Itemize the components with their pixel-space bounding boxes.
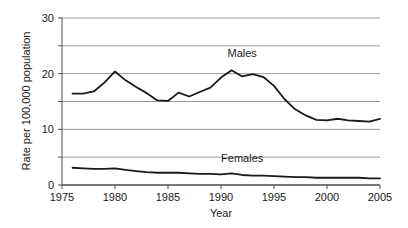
x-tick-label-1980: 1980: [103, 191, 127, 203]
chart-container: 0102030 1975198019851990199520002005 Mal…: [0, 0, 408, 228]
x-axis-title: Year: [210, 207, 233, 219]
y-tick-label-0: 0: [48, 179, 54, 191]
y-axis-title: Rate per 100,000 population: [20, 32, 32, 171]
series-label-females: Females: [221, 152, 264, 164]
y-tick-label-10: 10: [42, 123, 54, 135]
y-tick-label-30: 30: [42, 12, 54, 24]
x-tick-label-1990: 1990: [209, 191, 233, 203]
x-tick-label-2000: 2000: [315, 191, 339, 203]
x-tick-label-1995: 1995: [262, 191, 286, 203]
x-tick-label-1975: 1975: [50, 191, 74, 203]
y-tick-label-20: 20: [42, 68, 54, 80]
line-chart: 0102030 1975198019851990199520002005 Mal…: [0, 0, 408, 228]
x-tick-label-2005: 2005: [368, 191, 392, 203]
series-label-males: Males: [228, 47, 258, 59]
x-tick-label-1985: 1985: [156, 191, 180, 203]
